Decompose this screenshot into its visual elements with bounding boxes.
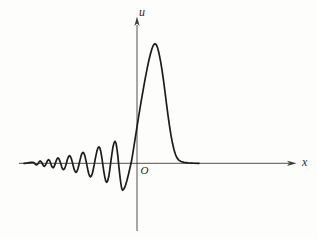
y-axis-label: u <box>139 5 145 19</box>
function-curve <box>24 44 199 191</box>
figure-canvas: u x O <box>0 0 317 239</box>
airy-wave-figure: u x O <box>0 0 317 239</box>
origin-label: O <box>141 164 149 176</box>
x-axis-label: x <box>301 155 308 169</box>
